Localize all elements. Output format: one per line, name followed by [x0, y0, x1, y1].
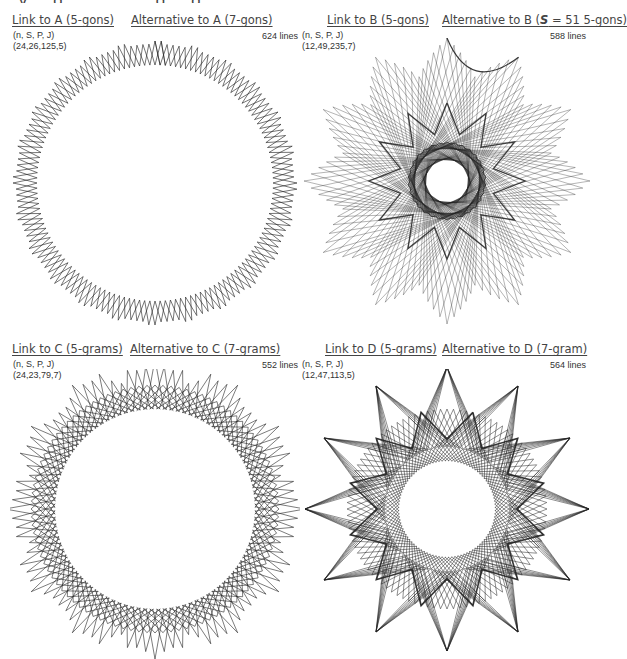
link-to-a[interactable]: Link to A (5-gons)	[12, 13, 114, 27]
gram-string-figure-d	[300, 369, 595, 659]
panel-c: Link to C (5-grams) Alternative to C (7-…	[0, 329, 298, 658]
link-to-d[interactable]: Link to D (5-grams)	[325, 342, 437, 356]
link-to-c[interactable]: Link to C (5-grams)	[12, 342, 123, 356]
alt-label-suffix: = 51 5-gons)	[548, 13, 627, 27]
panel-b: Link to B (5-gons) Alternative to B (S =…	[298, 0, 596, 329]
panel-d: Link to D (5-grams) Alternative to D (7-…	[298, 329, 596, 658]
alternative-to-a-link[interactable]: Alternative to A (7-gons)	[131, 13, 273, 27]
alternative-to-b-link[interactable]: Alternative to B (S = 51 5-gons)	[442, 13, 627, 27]
alt-label-prefix: Alternative to B (	[442, 13, 540, 27]
alternative-to-d-link[interactable]: Alternative to D (7-gram)	[442, 342, 587, 356]
polygon-string-figure-b	[300, 38, 595, 328]
link-to-b[interactable]: Link to B (5-gons)	[327, 13, 429, 27]
alternative-to-c-link[interactable]: Alternative to C (7-grams)	[130, 342, 280, 356]
gram-string-figure-c	[10, 369, 300, 659]
polygon-string-figure-a	[10, 38, 300, 328]
panel-a: Link to A (5-gons) Alternative to A (7-g…	[0, 0, 298, 329]
